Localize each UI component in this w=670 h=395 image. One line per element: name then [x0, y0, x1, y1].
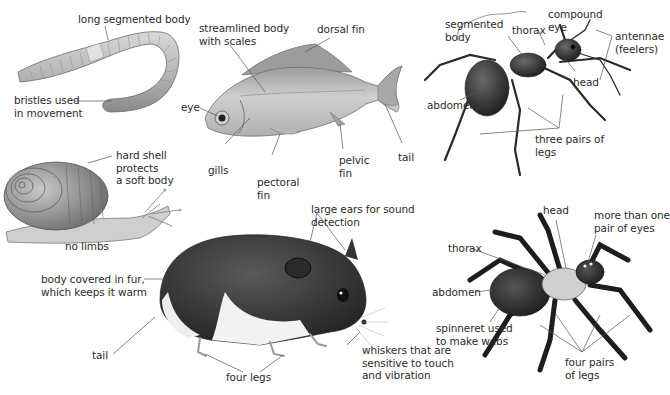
fish-illustration	[205, 44, 402, 136]
label-ant-compound-eye: compound eye	[548, 8, 603, 33]
label-ant-segmented-body: segmented body	[445, 18, 503, 43]
label-ant-head: head	[573, 76, 599, 89]
label-fish-gills: gills	[208, 164, 228, 177]
label-spider-abdomen: abdomen	[432, 286, 481, 299]
label-ant-antennae: antennae (feelers)	[615, 30, 664, 55]
label-ant-three-pairs-of-legs: three pairs of legs	[535, 133, 604, 158]
label-fish-eye: eye	[181, 101, 200, 114]
label-hamster-four-legs: four legs	[226, 371, 271, 384]
label-worm-bristles: bristles used in movement	[14, 94, 83, 119]
label-fish-streamlined-body: streamlined body with scales	[199, 22, 289, 47]
label-hamster-large-ears: large ears for sound detection	[311, 203, 415, 228]
label-snail-hard-shell: hard shell protects a soft body	[116, 149, 174, 187]
label-fish-pectoral-fin: pectoral fin	[257, 176, 299, 201]
label-spider-eyes: more than one pair of eyes	[594, 209, 670, 234]
label-worm-long-segmented-body: long segmented body	[78, 13, 191, 26]
label-spider-thorax: thorax	[448, 242, 482, 255]
label-spider-spinneret: spinneret used to make webs	[436, 322, 513, 347]
label-fish-pelvic-fin: pelvic fin	[339, 154, 369, 179]
label-snail-no-limbs: no limbs	[65, 240, 109, 253]
label-hamster-tail: tail	[92, 349, 108, 362]
label-spider-head: head	[543, 204, 569, 217]
label-spider-four-pairs-of-legs: four pairs of legs	[565, 356, 614, 381]
label-ant-abdomen: abdomen	[427, 99, 476, 112]
label-fish-tail: tail	[398, 151, 414, 164]
label-ant-thorax: thorax	[512, 24, 546, 37]
label-hamster-fur: body covered in fur, which keeps it warm	[41, 273, 147, 298]
label-fish-dorsal-fin: dorsal fin	[317, 23, 365, 36]
label-hamster-whiskers: whiskers that are sensitive to touch and…	[362, 344, 454, 382]
